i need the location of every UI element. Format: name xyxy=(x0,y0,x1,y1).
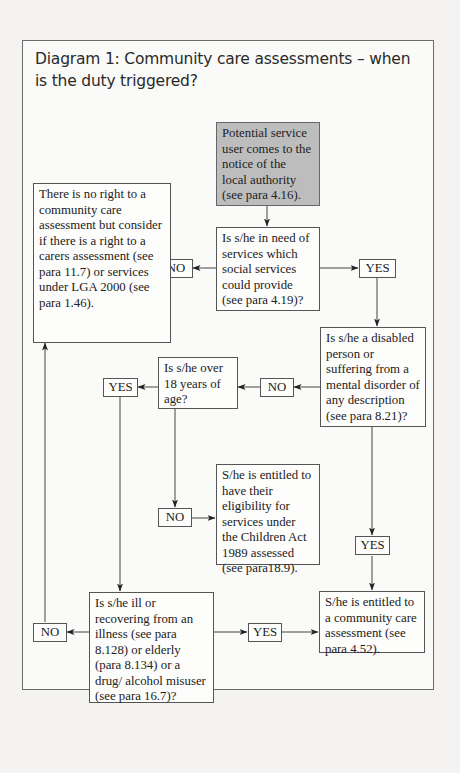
node-over-18: Is s/he over 18 years of age? xyxy=(158,357,238,409)
node-children-act: S/he is entitled to have their eligibili… xyxy=(216,464,320,565)
label-ill-no: NO xyxy=(33,623,67,642)
node-no-right: There is no right to a community care as… xyxy=(33,183,171,343)
node-ill-elderly: Is s/he ill or recovering from an illnes… xyxy=(89,592,214,703)
label-need-yes: YES xyxy=(359,259,396,278)
label-over18-no: NO xyxy=(158,508,192,527)
label-disabled-yes: YES xyxy=(355,536,390,555)
node-disabled: Is s/he a disabled person or suffering f… xyxy=(320,327,426,427)
label-disabled-no: NO xyxy=(260,378,294,397)
node-entitled: S/he is entitled to a community care ass… xyxy=(319,591,425,653)
node-need-services: Is s/he in need of services which social… xyxy=(216,227,320,311)
label-over18-yes: YES xyxy=(103,378,138,397)
node-start: Potential service user comes to the noti… xyxy=(216,122,320,206)
label-ill-yes: YES xyxy=(248,623,282,642)
